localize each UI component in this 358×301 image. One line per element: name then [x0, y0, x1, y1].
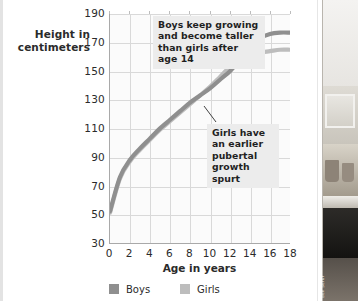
- photo-plant-pot-left: [325, 160, 339, 182]
- photo-band-shelf: [322, 196, 358, 208]
- x-tick-label: 12: [220, 247, 240, 259]
- photo-strip: Ben Serur: [322, 0, 358, 301]
- legend-swatch-icon: [180, 284, 190, 294]
- legend-label: Girls: [197, 284, 220, 295]
- annotation-girls: Girls have an earlier pubertal growth sp…: [207, 124, 279, 188]
- photo-credit: Ben Serur: [322, 275, 325, 298]
- growth-chart-figure: Height incentimeters 3050709011013015017…: [0, 0, 300, 301]
- x-tick-label: 14: [240, 247, 260, 259]
- x-tick-label: 6: [159, 247, 179, 259]
- photo-band-window: [322, 86, 358, 144]
- page-background: Height incentimeters 3050709011013015017…: [0, 0, 358, 301]
- legend-entry-boys: Boys: [109, 284, 150, 295]
- x-tick-label: 18: [280, 247, 300, 259]
- annotation-boys: Boys keep growing and become taller than…: [153, 16, 265, 69]
- x-tick-label: 10: [200, 247, 220, 259]
- x-axis-tick-labels: 024681012141618: [109, 247, 299, 261]
- x-tick-label: 2: [119, 247, 139, 259]
- x-tick-label: 16: [260, 247, 280, 259]
- photo-band-sky: [322, 0, 358, 86]
- x-axis-title: Age in years: [109, 262, 290, 274]
- photo-plant-pot-right: [342, 163, 354, 182]
- photo-left-edge: [322, 0, 323, 301]
- page-gutter-rule: [317, 0, 318, 301]
- x-tick-label: 8: [179, 247, 199, 259]
- legend-label: Boys: [126, 284, 150, 295]
- chart-legend: BoysGirls: [109, 281, 294, 297]
- x-tick-label: 4: [139, 247, 159, 259]
- photo-band-floor: [322, 258, 358, 301]
- legend-entry-girls: Girls: [180, 284, 220, 295]
- legend-swatch-icon: [109, 284, 119, 294]
- x-tick-label: 0: [99, 247, 119, 259]
- photo-band-dark-interior: [322, 208, 358, 258]
